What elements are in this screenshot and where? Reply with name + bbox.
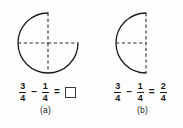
numerator: 1 <box>42 82 49 92</box>
denominator: 4 <box>137 93 144 103</box>
figure-panel-a: 3 4 – 1 4 = (a) <box>0 0 91 128</box>
fraction-one-fourth-a: 1 4 <box>42 82 49 103</box>
answer-box-a[interactable] <box>65 87 76 98</box>
figure-panel-b: 3 4 – 1 4 = 2 4 (b) <box>91 0 182 128</box>
denominator: 4 <box>114 93 121 103</box>
diagram-three-quarter-circle <box>0 0 91 78</box>
denominator: 4 <box>160 93 167 103</box>
diagram-half-circle <box>91 0 182 78</box>
numerator: 3 <box>114 82 121 92</box>
fraction-three-fourths-b: 3 4 <box>114 82 121 103</box>
denominator: 4 <box>19 93 26 103</box>
minus-operator-b: – <box>125 87 133 97</box>
numerator: 2 <box>160 82 167 92</box>
fraction-three-fourths-a: 3 4 <box>19 82 26 103</box>
three-quarter-circle-svg <box>0 0 91 78</box>
fraction-one-fourth-b: 1 4 <box>137 82 144 103</box>
denominator: 4 <box>42 93 49 103</box>
fraction-answer-two-fourths-b: 2 4 <box>160 82 167 103</box>
numerator: 3 <box>19 82 26 92</box>
fraction-figure: 3 4 – 1 4 = (a) <box>0 0 183 128</box>
numerator: 1 <box>137 82 144 92</box>
half-circle-svg <box>91 0 182 78</box>
minus-operator-a: – <box>30 87 38 97</box>
equals-operator-b: = <box>148 87 156 97</box>
equals-operator-a: = <box>53 87 61 97</box>
panel-label-a: (a) <box>0 105 91 115</box>
panel-label-b: (b) <box>91 105 183 115</box>
equation-a: 3 4 – 1 4 = <box>0 79 93 105</box>
equation-b: 3 4 – 1 4 = 2 4 <box>91 79 183 105</box>
